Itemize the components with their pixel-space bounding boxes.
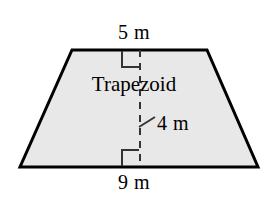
top-base-label: 5 m — [0, 22, 268, 42]
bottom-base-label: 9 m — [0, 172, 268, 192]
shape-name-label: Trapezoid — [0, 74, 268, 95]
height-label: 4 m — [157, 113, 189, 133]
trapezoid-figure: 5 m Trapezoid 4 m 9 m — [0, 0, 268, 197]
